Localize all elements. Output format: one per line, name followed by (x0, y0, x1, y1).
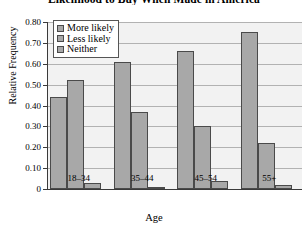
legend-item: Neither (57, 44, 114, 55)
x-axis-category-label: 18–34 (68, 173, 91, 183)
y-axis-tick (43, 147, 48, 148)
legend-swatch-icon (57, 46, 64, 53)
y-axis-title: Relative Frequency (7, 6, 18, 126)
bar (177, 51, 194, 189)
bar (275, 185, 292, 189)
bar (50, 97, 67, 189)
y-axis-tick (43, 189, 48, 190)
y-axis-tick-label: 0.10 (25, 163, 41, 173)
x-axis-category-label: 45–54 (195, 173, 218, 183)
bar-chart-figure: Likelihood to Buy When Made in America R… (0, 0, 308, 233)
y-axis-tick-label: 0.20 (25, 142, 41, 152)
legend-item: More likely (57, 23, 114, 34)
y-axis-tick-label: 0 (37, 184, 42, 194)
bar (241, 32, 258, 189)
y-axis-tick (43, 64, 48, 65)
y-axis-tick (43, 85, 48, 86)
bar (114, 62, 131, 189)
gridline (48, 106, 302, 107)
x-axis-category-label: 55+ (262, 173, 276, 183)
y-axis-tick-label: 0.80 (25, 17, 41, 27)
y-axis-tick-label: 0.70 (25, 38, 41, 48)
gridline (48, 64, 302, 65)
y-axis-tick (43, 168, 48, 169)
y-axis-tick (43, 126, 48, 127)
legend-swatch-icon (57, 25, 64, 32)
y-axis-tick-label: 0.40 (25, 101, 41, 111)
y-axis-tick-label: 0.50 (25, 80, 41, 90)
y-axis-tick (43, 106, 48, 107)
chart-legend: More likelyLess likelyNeither (53, 20, 119, 58)
chart-title: Likelihood to Buy When Made in America (0, 0, 308, 5)
legend-swatch-icon (57, 35, 64, 42)
y-axis-tick-label: 0.60 (25, 59, 41, 69)
y-axis-tick (43, 43, 48, 44)
x-axis-category-label: 35–44 (131, 173, 154, 183)
legend-label: More likely (67, 23, 114, 34)
legend-label: Neither (67, 44, 97, 55)
bar (84, 183, 101, 189)
gridline (48, 126, 302, 127)
y-axis-tick-label: 0.30 (25, 121, 41, 131)
gridline (48, 85, 302, 86)
y-axis-tick (43, 22, 48, 23)
x-axis-title: Age (0, 212, 308, 223)
bar (148, 187, 165, 189)
